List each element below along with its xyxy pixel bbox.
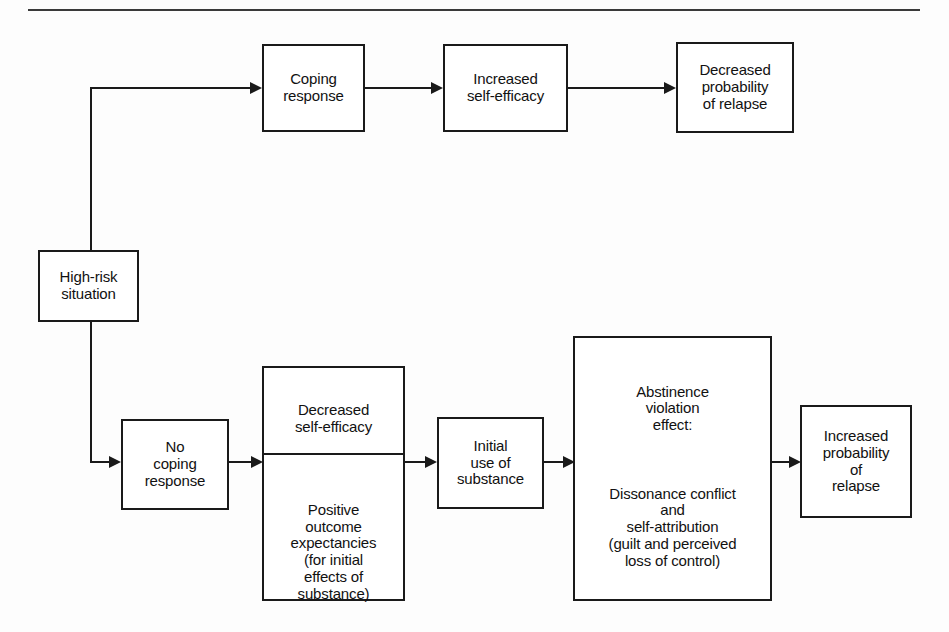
node-abstinence-violation-body: Dissonance conflict and self-attribution… xyxy=(575,480,770,632)
arrowhead-into-coping-response xyxy=(250,82,262,94)
connector-initial-use-to-abstinence-violation xyxy=(544,461,563,463)
arrowhead-into-no-coping-response xyxy=(109,456,121,468)
relapse-process-flowchart: High-risk situation Coping response Incr… xyxy=(0,0,949,632)
node-coping-response[interactable]: Coping response xyxy=(262,44,365,132)
connector-coping-to-self-efficacy xyxy=(365,87,431,89)
node-abstinence-violation-effect[interactable]: Abstinence violation effect: Dissonance … xyxy=(573,336,772,601)
node-expectancies-composite[interactable]: Decreased self-efficacy Positive outcome… xyxy=(262,366,405,601)
node-increased-self-efficacy[interactable]: Increased self-efficacy xyxy=(443,44,568,132)
connector-self-efficacy-to-decreased-probability xyxy=(568,87,664,89)
arrowhead-into-initial-use xyxy=(425,456,437,468)
top-horizontal-rule xyxy=(28,9,920,11)
connector-high-risk-up-segment xyxy=(90,88,92,252)
node-decreased-self-efficacy: Decreased self-efficacy xyxy=(264,385,403,455)
node-abstinence-violation-heading: Abstinence violation effect: xyxy=(575,355,770,463)
connector-abstinence-violation-to-increased-probability xyxy=(772,461,789,463)
connector-no-coping-to-expectancies xyxy=(229,461,251,463)
node-increased-probability-of-relapse[interactable]: Increased probability of relapse xyxy=(800,405,912,518)
node-no-coping-response[interactable]: No coping response xyxy=(121,419,229,510)
node-positive-outcome-expectancies: Positive outcome expectancies (for initi… xyxy=(264,472,403,632)
connector-high-risk-to-coping-segment xyxy=(90,87,250,89)
arrowhead-into-decreased-probability xyxy=(664,82,676,94)
connector-high-risk-to-no-coping-segment xyxy=(90,461,109,463)
node-decreased-probability-of-relapse[interactable]: Decreased probability of relapse xyxy=(676,42,794,133)
node-initial-use-of-substance[interactable]: Initial use of substance xyxy=(437,417,544,509)
arrowhead-into-increased-self-efficacy xyxy=(431,82,443,94)
connector-high-risk-down-segment xyxy=(90,321,92,463)
connector-expectancies-to-initial-use xyxy=(405,461,425,463)
node-high-risk-situation[interactable]: High-risk situation xyxy=(38,250,139,322)
